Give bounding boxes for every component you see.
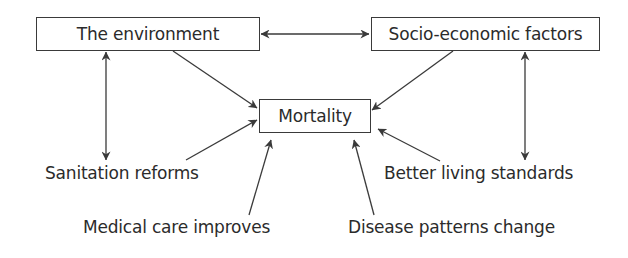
node-environment: The environment [36, 17, 260, 51]
arrow-living-mortality [378, 129, 440, 161]
node-mortality-label: Mortality [278, 106, 352, 126]
factor-better-living-standards: Better living standards [384, 163, 573, 183]
factor-disease-patterns-change: Disease patterns change [348, 217, 555, 237]
arrow-socio-mortality [372, 51, 453, 110]
node-mortality: Mortality [259, 99, 371, 133]
factor-sanitation-reforms: Sanitation reforms [45, 163, 199, 183]
arrow-environment-mortality [173, 51, 257, 108]
factor-medical-care-improves: Medical care improves [83, 217, 270, 237]
node-socio-economic-factors: Socio-economic factors [371, 17, 600, 51]
arrow-sanitation-mortality [186, 120, 257, 160]
arrow-disease-mortality [354, 140, 374, 215]
node-environment-label: The environment [77, 24, 219, 44]
node-socio-label: Socio-economic factors [389, 24, 583, 44]
arrow-medical-mortality [249, 140, 271, 215]
